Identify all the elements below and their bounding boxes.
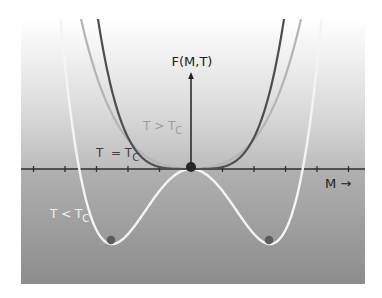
left-minimum-point: [107, 236, 116, 245]
y-axis-label: F(M,T): [172, 54, 213, 69]
right-minimum-point: [265, 236, 274, 245]
landau-free-energy-diagram: F(M,T) M→ T > TC T = TC T < TC: [0, 0, 382, 298]
origin-point: [186, 162, 196, 172]
